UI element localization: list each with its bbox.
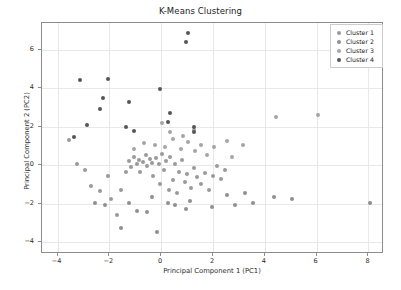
- scatter-point: [177, 170, 181, 174]
- x-tick-label: 4: [262, 257, 266, 265]
- scatter-point: [168, 155, 172, 159]
- x-tick-mark: [212, 253, 213, 256]
- scatter-point: [192, 166, 196, 170]
- scatter-point: [192, 125, 196, 129]
- scatter-point: [166, 201, 170, 205]
- legend-marker-icon: [337, 58, 341, 62]
- scatter-point: [181, 134, 185, 138]
- chart-legend[interactable]: Cluster 1Cluster 2Cluster 3Cluster 4: [330, 24, 383, 68]
- legend-item-label: Cluster 3: [346, 47, 374, 54]
- scatter-point: [225, 139, 229, 143]
- x-tick-mark: [367, 253, 368, 256]
- scatter-point: [150, 195, 154, 199]
- scatter-point: [115, 213, 119, 217]
- scatter-point: [168, 130, 172, 134]
- scatter-point: [119, 188, 123, 192]
- legend-item-label: Cluster 2: [346, 38, 374, 45]
- scatter-point: [210, 205, 214, 209]
- scatter-point: [85, 123, 89, 127]
- scatter-point: [186, 140, 190, 144]
- x-axis-label: Principal Component 1 (PC1): [41, 267, 383, 275]
- scatter-point: [180, 158, 184, 162]
- scatter-point: [184, 40, 188, 44]
- scatter-point: [251, 201, 255, 205]
- y-axis-label: Principal Component 2 (PC2): [23, 71, 31, 211]
- y-tick-label: 6: [0, 45, 34, 53]
- scatter-point: [83, 168, 87, 172]
- scatter-point: [167, 188, 171, 192]
- scatter-point: [175, 191, 179, 195]
- scatter-point: [188, 199, 192, 203]
- legend-item-4[interactable]: Cluster 4: [333, 55, 379, 64]
- scatter-point: [135, 162, 139, 166]
- scatter-point: [150, 161, 154, 165]
- scatter-point: [132, 147, 136, 151]
- scatter-point: [129, 165, 133, 169]
- scatter-point: [205, 153, 209, 157]
- scatter-point: [171, 137, 175, 141]
- scatter-point: [243, 191, 247, 195]
- legend-item-label: Cluster 1: [346, 29, 374, 36]
- y-tick-mark: [38, 203, 41, 204]
- x-tick-mark: [316, 253, 317, 256]
- scatter-point: [160, 152, 164, 156]
- scatter-point: [124, 170, 128, 174]
- scatter-point: [145, 164, 149, 168]
- gridline-vertical: [265, 23, 266, 252]
- scatter-point: [368, 201, 372, 205]
- scatter-point: [199, 182, 203, 186]
- scatter-point: [168, 111, 172, 115]
- scatter-point: [127, 100, 131, 104]
- gridline-horizontal: [42, 88, 382, 89]
- chart-title: K-Means Clustering: [0, 6, 401, 16]
- legend-marker-icon: [337, 31, 341, 35]
- y-tick-mark: [38, 87, 41, 88]
- scatter-point: [183, 180, 187, 184]
- x-tick-mark: [264, 253, 265, 256]
- scatter-point: [230, 155, 234, 159]
- scatter-point: [173, 203, 177, 207]
- scatter-point: [215, 164, 219, 168]
- x-tick-mark: [160, 253, 161, 256]
- scatter-point: [160, 121, 164, 125]
- scatter-point: [72, 135, 76, 139]
- scatter-point: [274, 115, 278, 119]
- scatter-point: [166, 120, 170, 124]
- scatter-point: [132, 129, 136, 133]
- gridline-horizontal: [42, 127, 382, 128]
- gridline-vertical: [317, 23, 318, 252]
- scatter-point: [225, 193, 229, 197]
- gridline-vertical: [109, 23, 110, 252]
- scatter-point: [124, 125, 128, 129]
- scatter-point: [98, 107, 102, 111]
- scatter-point: [153, 143, 157, 147]
- scatter-point: [106, 174, 110, 178]
- scatter-point: [135, 209, 139, 213]
- scatter-point: [158, 87, 162, 91]
- chart-figure: K-Means Clustering −4−202468−4−20246 Pri…: [0, 0, 401, 290]
- legend-marker-icon: [337, 49, 341, 53]
- scatter-point: [233, 203, 237, 207]
- scatter-point: [103, 203, 107, 207]
- scatter-point: [207, 188, 211, 192]
- scatter-point: [138, 170, 142, 174]
- scatter-point: [186, 31, 190, 35]
- legend-item-3[interactable]: Cluster 3: [333, 46, 379, 55]
- x-tick-label: 2: [210, 257, 214, 265]
- legend-item-1[interactable]: Cluster 1: [333, 28, 379, 37]
- y-tick-mark: [38, 241, 41, 242]
- legend-item-2[interactable]: Cluster 2: [333, 37, 379, 46]
- scatter-point: [145, 210, 149, 214]
- scatter-point: [142, 141, 146, 145]
- scatter-point: [93, 201, 97, 205]
- scatter-point: [171, 178, 175, 182]
- y-tick-mark: [38, 164, 41, 165]
- scatter-point: [316, 113, 320, 117]
- y-tick-label: −4: [0, 237, 34, 245]
- scatter-point: [151, 174, 155, 178]
- legend-marker-icon: [337, 40, 341, 44]
- scatter-point: [154, 156, 158, 160]
- scatter-point: [158, 182, 162, 186]
- x-tick-label: 0: [158, 257, 162, 265]
- scatter-point: [211, 174, 215, 178]
